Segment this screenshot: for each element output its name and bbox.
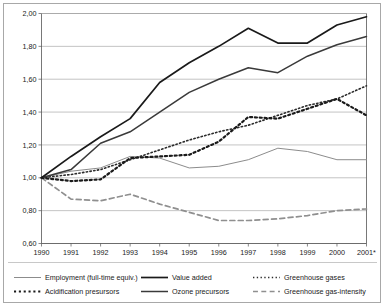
y-axis-tick-label: 1,40 bbox=[23, 108, 37, 117]
x-axis-tick-label: 1990 bbox=[34, 248, 50, 257]
series-line bbox=[42, 86, 367, 178]
x-axis-tick-label: 1998 bbox=[270, 248, 286, 257]
x-axis-tick-label: 1997 bbox=[240, 248, 256, 257]
x-axis-tick-label: 1993 bbox=[122, 248, 138, 257]
y-axis-tick-label: 1,80 bbox=[23, 42, 37, 51]
x-axis-tick-label: 1999 bbox=[299, 248, 315, 257]
line-chart: 0,600,801,001,201,401,601,802,0019901991… bbox=[0, 0, 385, 307]
x-axis-tick-label: 1996 bbox=[211, 248, 227, 257]
series-line bbox=[42, 178, 367, 221]
y-axis-tick-label: 2,00 bbox=[23, 9, 37, 18]
legend-item[interactable]: Value added bbox=[141, 273, 212, 282]
legend-item[interactable]: Greenhouse gases bbox=[253, 273, 345, 282]
legend-item[interactable]: Acidification presursors bbox=[14, 287, 120, 296]
series-line bbox=[42, 17, 367, 178]
x-axis-tick-label: 2001* bbox=[357, 248, 376, 257]
legend-label: Ozone precursors bbox=[172, 287, 230, 296]
series-line bbox=[42, 37, 367, 178]
legend-label: Greenhouse gases bbox=[284, 273, 345, 282]
y-axis-tick-label: 1,00 bbox=[23, 173, 37, 182]
x-axis-tick-label: 1995 bbox=[181, 248, 197, 257]
x-axis-tick-label: 1992 bbox=[93, 248, 109, 257]
legend-label: Greenhouse gas-intensity bbox=[284, 287, 366, 296]
y-axis-tick-label: 0,80 bbox=[23, 206, 37, 215]
legend-label: Value added bbox=[172, 273, 212, 282]
legend-item[interactable]: Employment (full-time equiv.) bbox=[14, 273, 138, 282]
x-axis-tick-label: 2000 bbox=[329, 248, 345, 257]
legend-label: Acidification presursors bbox=[45, 287, 120, 296]
x-axis-tick-label: 1991 bbox=[63, 248, 79, 257]
legend-item[interactable]: Greenhouse gas-intensity bbox=[253, 287, 366, 296]
y-axis-tick-label: 0,60 bbox=[23, 239, 37, 248]
legend-label: Employment (full-time equiv.) bbox=[45, 273, 138, 282]
y-axis-tick-label: 1,60 bbox=[23, 75, 37, 84]
legend-item[interactable]: Ozone precursors bbox=[141, 287, 230, 296]
x-axis-tick-label: 1994 bbox=[152, 248, 168, 257]
y-axis-tick-label: 1,20 bbox=[23, 141, 37, 150]
chart-figure: 0,600,801,001,201,401,601,802,0019901991… bbox=[0, 0, 385, 307]
